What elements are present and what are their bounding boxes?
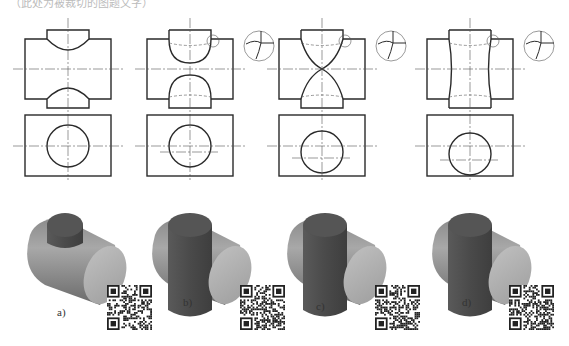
detail-marker-circle xyxy=(207,35,219,47)
vertical-cylinder-top-face xyxy=(303,213,347,237)
qr-code-c[interactable] xyxy=(375,285,420,330)
panel-b xyxy=(135,18,274,317)
detail-view-circle xyxy=(524,31,554,61)
qr-code-a[interactable] xyxy=(107,285,152,330)
vertical-cylinder-top-face xyxy=(168,213,212,237)
panel-d xyxy=(415,18,554,317)
panel-c xyxy=(267,18,406,317)
detail-view-circle xyxy=(244,31,274,61)
panel-label-a: a) xyxy=(57,306,66,318)
panel-a xyxy=(13,18,134,310)
panel-label-c: c) xyxy=(316,300,325,312)
detail-view-circle xyxy=(376,31,406,61)
qr-code-b[interactable] xyxy=(240,285,285,330)
panel-label-d: d) xyxy=(462,296,471,308)
qr-code-d[interactable] xyxy=(509,285,554,330)
detail-marker-circle xyxy=(339,35,351,47)
vertical-cylinder-body xyxy=(303,225,347,317)
panel-label-b: b) xyxy=(183,296,192,308)
vertical-cylinder-top-face xyxy=(448,213,492,237)
detail-marker-circle xyxy=(487,35,499,47)
vertical-cylinder-top-face xyxy=(47,213,83,237)
